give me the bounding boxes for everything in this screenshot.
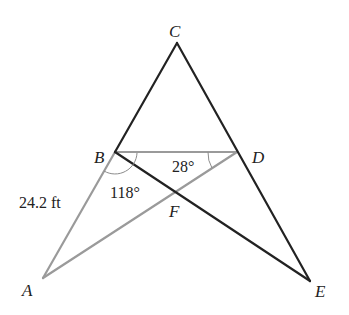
point-label-A: A bbox=[21, 281, 33, 300]
side-length-AB: 24.2 ft bbox=[19, 194, 61, 211]
angle-label-28: 28° bbox=[172, 158, 194, 175]
point-label-D: D bbox=[251, 148, 265, 167]
segment-CB bbox=[115, 43, 177, 152]
angle-arc-D bbox=[208, 152, 212, 168]
segment-BE bbox=[115, 152, 310, 281]
geometry-diagram: C B D A E F 24.2 ft 118° 28° bbox=[0, 0, 349, 315]
point-label-B: B bbox=[94, 148, 105, 167]
segment-AD bbox=[43, 152, 237, 278]
point-label-E: E bbox=[314, 282, 326, 301]
angle-label-118: 118° bbox=[110, 184, 140, 201]
point-label-F: F bbox=[168, 202, 180, 221]
segment-CE bbox=[177, 43, 310, 281]
point-label-C: C bbox=[169, 22, 181, 41]
